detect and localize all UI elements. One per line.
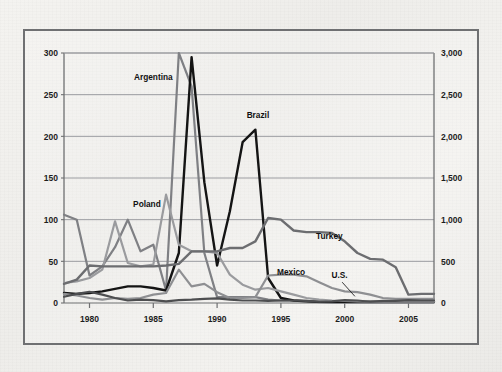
chart-figure: 050100150200250300 05001,0001,5002,0002,…: [25, 31, 477, 343]
right-axis-tick-label: 1,500: [441, 173, 463, 183]
left-axis-tick-label: 100: [44, 215, 58, 225]
series-label-us: U.S.: [332, 270, 348, 280]
x-axis-tick-label: 1990: [208, 314, 227, 324]
right-axis-tick-label: 2,500: [441, 90, 463, 100]
right-axis-tick-label: 500: [441, 257, 455, 267]
x-axis-tick-label: 2000: [335, 314, 354, 324]
series-line-turkey: [64, 218, 434, 295]
left-axis-tick-label: 0: [53, 298, 58, 308]
chart-frame-border: 050100150200250300 05001,0001,5002,0002,…: [23, 29, 479, 345]
line-chart-canvas: 050100150200250300 05001,0001,5002,0002,…: [25, 31, 476, 342]
left-axis-ticks-group: 050100150200250300: [44, 48, 64, 308]
series-line-brazil: [64, 57, 434, 302]
right-axis-tick-label: 2,000: [441, 132, 463, 142]
series-line-mexico: [64, 270, 434, 300]
x-axis-ticks-group: 198019851990199520002005: [80, 303, 418, 324]
right-axis-ticks-group: 05001,0001,5002,0002,5003,000: [441, 48, 463, 308]
leader-line-us: [342, 282, 355, 296]
left-axis-tick-label: 200: [44, 132, 58, 142]
left-axis-tick-label: 250: [44, 90, 58, 100]
left-axis-tick-label: 50: [49, 257, 59, 267]
right-axis-tick-label: 1,000: [441, 215, 463, 225]
series-line-poland: [64, 195, 434, 302]
x-axis-tick-label: 2005: [399, 314, 418, 324]
x-axis-tick-label: 1995: [271, 314, 290, 324]
x-axis-tick-label: 1980: [80, 314, 99, 324]
series-label-turkey: Turkey: [316, 231, 343, 241]
left-axis-tick-label: 300: [44, 48, 58, 58]
series-annotations-group: ArgentinaBrazilPolandTurkeyMexicoU.S.: [133, 72, 355, 297]
right-axis-tick-label: 0: [441, 298, 446, 308]
x-axis-tick-label: 1985: [144, 314, 163, 324]
series-label-brazil: Brazil: [247, 110, 270, 120]
left-axis-tick-label: 150: [44, 173, 58, 183]
right-axis-tick-label: 3,000: [441, 48, 463, 58]
series-label-argentina: Argentina: [134, 72, 173, 82]
series-label-poland: Poland: [133, 199, 161, 209]
series-label-mexico: Mexico: [277, 267, 305, 277]
